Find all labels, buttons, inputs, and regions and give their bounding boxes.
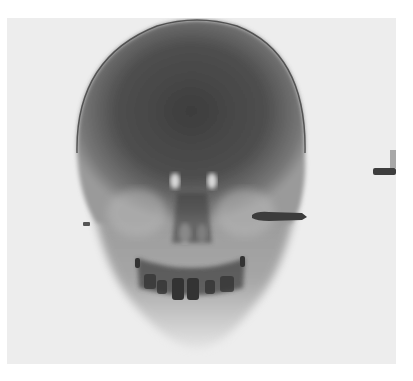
left-orbit <box>107 189 167 237</box>
fragment-left <box>83 222 90 226</box>
xray-image <box>7 18 396 364</box>
foreign-body-bullet <box>252 212 307 221</box>
edge-object <box>373 168 396 175</box>
skull-radiograph <box>7 18 396 364</box>
cranium <box>77 20 305 223</box>
